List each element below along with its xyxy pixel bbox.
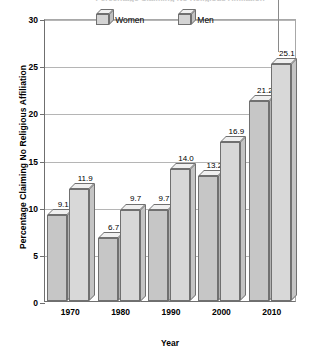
y-axis-tick: [40, 67, 45, 68]
gridline: [45, 20, 295, 21]
bar-value-label: 9.7: [130, 194, 141, 203]
bar-front-face: [249, 101, 269, 301]
bar-value-label: 11.9: [78, 174, 93, 183]
bar-front-face: [198, 176, 218, 301]
y-axis-tick-label: 10: [29, 204, 38, 214]
y-axis-tick-label: 0: [33, 298, 38, 308]
bar-front-face: [170, 169, 190, 301]
bar-front-face: [69, 189, 89, 301]
gridline: [45, 67, 295, 68]
bar-men-1980: [120, 210, 140, 302]
x-axis-tick-label: 1990: [162, 307, 181, 317]
y-axis-tick: [40, 303, 45, 304]
bar-value-label: 6.7: [108, 223, 119, 232]
bar-side-face: [240, 136, 246, 301]
y-axis-tick-label: 5: [33, 251, 38, 261]
bar-women-2010: [249, 101, 269, 301]
y-axis-tick-label: 20: [29, 109, 38, 119]
y-axis-tick: [40, 256, 45, 257]
bar-side-face: [190, 163, 196, 301]
x-axis-tick-label: 1980: [111, 307, 130, 317]
chart-figure: Percentage Claiming No Religious Affilia…: [0, 0, 310, 358]
y-axis-tick: [40, 114, 45, 115]
bar-value-label: 9.7: [158, 194, 169, 203]
y-axis-tick-label: 25: [29, 62, 38, 72]
bar-value-label: 16.9: [229, 127, 245, 136]
bar-men-1990: [170, 169, 190, 301]
plot-area: 0510152025309.111.96.79.79.714.013.216.9…: [44, 19, 296, 302]
x-axis-tick-label: 2010: [262, 307, 281, 317]
bar-value-label: 9.1: [58, 200, 69, 209]
bar-side-face: [140, 204, 146, 302]
bar-men-1970: [69, 189, 89, 301]
bar-front-face: [271, 64, 291, 301]
bar-front-face: [148, 210, 168, 302]
bar-women-1970: [47, 215, 67, 301]
bar-front-face: [120, 210, 140, 302]
bar-side-face: [291, 58, 297, 301]
bar-side-face: [89, 183, 95, 301]
y-axis-tick-label: 15: [29, 157, 38, 167]
bar-women-1980: [98, 238, 118, 301]
callout-leader-line: [278, 0, 279, 52]
bar-front-face: [220, 142, 240, 301]
y-axis-tick: [40, 162, 45, 163]
y-axis-tick: [40, 209, 45, 210]
bar-front-face: [47, 215, 67, 301]
y-axis-title: Percentage Claiming No Religious Affilia…: [18, 42, 28, 272]
x-axis-title: Year: [44, 338, 296, 348]
bar-front-face: [98, 238, 118, 301]
bar-men-2010: [271, 64, 291, 301]
bar-men-2000: [220, 142, 240, 301]
x-axis-tick-label: 1970: [61, 307, 80, 317]
x-axis-tick-label: 2000: [212, 307, 231, 317]
bar-value-label: 14.0: [178, 154, 194, 163]
bar-women-1990: [148, 210, 168, 302]
chart-title-clipped: Percentage Claiming No Religious Affilia…: [60, 0, 300, 2]
bar-women-2000: [198, 176, 218, 301]
y-axis-tick: [40, 20, 45, 21]
y-axis-tick-label: 30: [29, 15, 38, 25]
bar-value-label: 25.1: [279, 49, 295, 58]
